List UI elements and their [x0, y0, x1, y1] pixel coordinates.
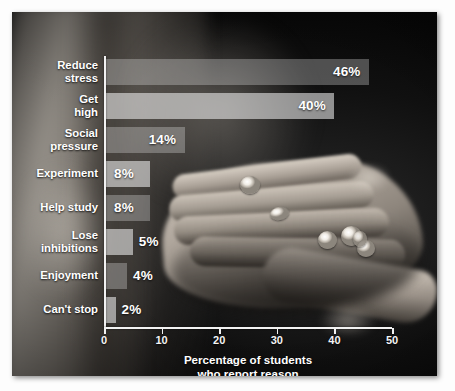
value-label-2: 40%: [298, 98, 326, 113]
x-tick-label-40: 40: [328, 334, 340, 346]
bar-7: [104, 263, 127, 289]
value-label-3: 14%: [149, 132, 177, 147]
category-label-4: Experiment: [26, 167, 98, 179]
bar-chart: Reduce stressGet highSocial pressureExpe…: [12, 12, 437, 376]
bar-6: [104, 229, 133, 255]
value-label-5: 8%: [114, 200, 134, 215]
x-tick-label-0: 0: [101, 334, 107, 346]
category-label-1: Reduce stress: [26, 59, 98, 84]
value-label-7: 4%: [133, 268, 153, 283]
category-label-6: Lose inhibitions: [26, 229, 98, 254]
category-label-7: Enjoyment: [26, 269, 98, 281]
y-axis-line: [104, 56, 106, 328]
category-label-3: Social pressure: [26, 127, 98, 152]
x-tick-label-20: 20: [213, 334, 225, 346]
category-label-5: Help study: [26, 201, 98, 213]
bar-1: [104, 59, 369, 85]
value-label-4: 8%: [114, 166, 134, 181]
x-tick-label-10: 10: [155, 334, 167, 346]
category-label-8: Can't stop: [26, 303, 98, 315]
photo-plate: Reduce stressGet highSocial pressureExpe…: [12, 12, 437, 376]
figure-root: Reduce stressGet highSocial pressureExpe…: [0, 0, 455, 391]
value-label-1: 46%: [333, 64, 361, 79]
x-tick-label-30: 30: [271, 334, 283, 346]
x-axis-title: Percentage of students who report reason: [104, 353, 392, 376]
x-axis-line: [104, 327, 392, 329]
x-tick-label-50: 50: [386, 334, 398, 346]
category-label-2: Get high: [26, 93, 98, 118]
value-label-8: 2%: [122, 302, 142, 317]
value-label-6: 5%: [139, 234, 159, 249]
